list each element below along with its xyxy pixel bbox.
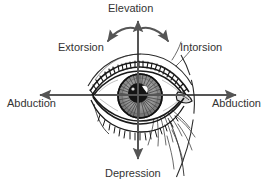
label-elevation: Elevation <box>108 2 153 14</box>
label-extorsion: Extorsion <box>58 41 104 53</box>
eye-movement-diagram: Elevation Extorsion Intorsion Abduction … <box>0 0 280 192</box>
label-abduction-left: Abduction <box>7 97 56 109</box>
label-intorsion: Intorsion <box>180 41 222 53</box>
axes-overlay <box>0 0 280 192</box>
label-abduction-right: Abduction <box>212 97 261 109</box>
label-depression: Depression <box>105 167 161 179</box>
